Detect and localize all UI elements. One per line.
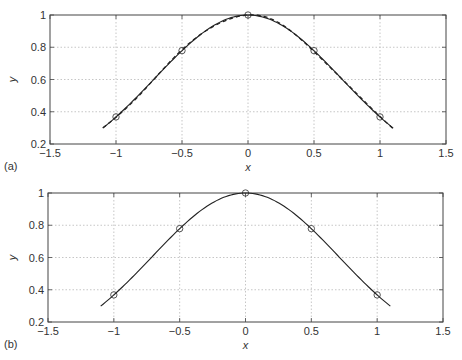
panel-label: (b) — [4, 338, 17, 350]
y-tick-label: 0.8 — [29, 219, 44, 231]
x-tick-label: 1 — [374, 325, 380, 337]
y-tick-label: 0.6 — [29, 252, 44, 264]
x-tick-label: −0.5 — [169, 325, 191, 337]
x-tick-label: 0 — [242, 325, 248, 337]
y-axis-label: y — [6, 253, 18, 261]
chart-panel-b: −1.5−1−0.500.511.50.20.40.60.81xy(b) — [4, 187, 451, 351]
y-tick-label: 0.6 — [31, 74, 46, 86]
x-tick-label: 1.5 — [438, 147, 453, 159]
x-tick-label: 0.5 — [306, 147, 321, 159]
x-axis-label: x — [242, 339, 249, 351]
y-tick-label: 0.4 — [31, 106, 46, 118]
figure: −1.5−1−0.500.511.50.20.40.60.81xy(a)−1.5… — [0, 0, 462, 360]
x-tick-label: 1.5 — [435, 325, 450, 337]
y-tick-label: 1 — [40, 9, 46, 21]
x-tick-label: 1 — [377, 147, 383, 159]
x-tick-label: −1 — [108, 325, 121, 337]
grid-lines — [48, 193, 443, 322]
y-tick-label: 0.8 — [31, 41, 46, 53]
x-tick-label: 0 — [245, 147, 251, 159]
y-tick-label: 1 — [38, 187, 44, 199]
y-tick-label: 0.2 — [31, 138, 46, 150]
x-axis-label: x — [244, 161, 251, 173]
grid-lines — [50, 15, 446, 144]
y-axis-label: y — [6, 75, 18, 83]
y-tick-label: 0.2 — [29, 316, 44, 328]
x-tick-label: 0.5 — [304, 325, 319, 337]
x-tick-label: −0.5 — [171, 147, 193, 159]
chart-panel-a: −1.5−1−0.500.511.50.20.40.60.81xy(a) — [4, 9, 454, 173]
panel-label: (a) — [4, 160, 17, 172]
y-tick-label: 0.4 — [29, 284, 44, 296]
x-tick-label: −1 — [110, 147, 123, 159]
